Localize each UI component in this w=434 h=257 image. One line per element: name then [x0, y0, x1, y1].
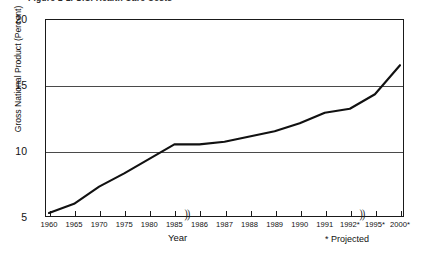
x-tick-label-1988: 1988 — [241, 221, 258, 229]
x-tick-label-1989: 1989 — [266, 221, 283, 229]
x-tick-label-1980: 1980 — [141, 221, 158, 229]
x-tick-label-1960: 1960 — [41, 221, 58, 229]
x-tick-1985 — [175, 211, 176, 216]
x-tick-1987 — [226, 211, 227, 216]
y-tick-label-10: 10 — [5, 146, 27, 156]
x-tick-1980 — [150, 211, 151, 216]
gridline-15 — [46, 86, 403, 87]
x-tick-label-1992p: 1992* — [340, 221, 360, 229]
x-tick-label-1987: 1987 — [216, 221, 233, 229]
x-tick-1965 — [75, 211, 76, 216]
x-tick-label-1986: 1986 — [191, 221, 208, 229]
x-tick-label-1995p: 1995* — [365, 221, 385, 229]
axis-break-after-1985: )) — [184, 208, 189, 220]
x-tick-1988 — [251, 211, 252, 216]
gridline-10 — [46, 152, 403, 153]
x-tick-label-1990: 1990 — [291, 221, 308, 229]
x-tick-1970 — [100, 211, 101, 216]
x-tick-1986 — [200, 211, 201, 216]
x-tick-1989 — [276, 211, 277, 216]
x-tick-label-1991: 1991 — [316, 221, 333, 229]
x-tick-1960 — [50, 211, 51, 216]
x-tick-label-2000p: 2000* — [390, 221, 410, 229]
x-tick-1975 — [125, 211, 126, 216]
y-tick-label-15: 15 — [5, 80, 27, 90]
x-tick-label-1970: 1970 — [91, 221, 108, 229]
x-tick-1992p — [351, 211, 352, 216]
x-tick-1990 — [301, 211, 302, 216]
x-tick-2000p — [401, 211, 402, 216]
plot-frame — [45, 19, 404, 217]
x-tick-label-1985: 1985 — [166, 221, 183, 229]
x-axis-title: Year — [168, 232, 187, 243]
axis-break-after-1992p: )) — [360, 208, 365, 220]
y-tick-label-20: 20 — [5, 14, 27, 24]
x-tick-1991 — [326, 211, 327, 216]
y-tick-label-5: 5 — [5, 212, 27, 222]
chart-area: Gross National Product (Percent) 5101520… — [0, 0, 434, 257]
x-tick-label-1975: 1975 — [116, 221, 133, 229]
projected-footnote: * Projected — [325, 234, 369, 244]
x-tick-label-1965: 1965 — [66, 221, 83, 229]
x-tick-1995p — [376, 211, 377, 216]
